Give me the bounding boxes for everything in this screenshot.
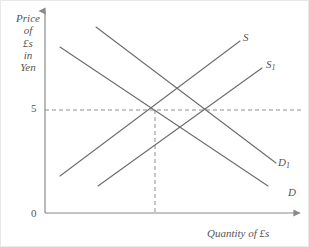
supply-label-subscript: 1 bbox=[272, 63, 276, 72]
x-axis-label: Quantity of £s bbox=[207, 227, 269, 239]
y-axis-label-line-3: £s bbox=[8, 37, 48, 49]
supply-curve-label-S1: S1 bbox=[266, 58, 276, 73]
demand-curve-label-D1: D1 bbox=[278, 156, 290, 171]
demand-curve-label-D: D bbox=[288, 186, 296, 198]
y-axis-label-line-5: Yen bbox=[8, 61, 48, 73]
y-axis-label-line-4: in bbox=[8, 49, 48, 61]
supply-demand-diagram: Price of £s in Yen Quantity of £s 5 0 S … bbox=[0, 0, 309, 247]
demand-curve-D1 bbox=[96, 27, 276, 163]
supply-curve-S bbox=[60, 41, 240, 176]
demand-curve-D bbox=[60, 47, 268, 186]
supply-curve-label-S: S bbox=[243, 31, 249, 43]
y-axis-label-line-1: Price bbox=[8, 12, 48, 24]
y-axis-label: Price of £s in Yen bbox=[8, 12, 48, 74]
demand-label-subscript: 1 bbox=[286, 161, 290, 170]
y-tick-5: 5 bbox=[31, 102, 37, 114]
y-axis-label-line-2: of bbox=[8, 24, 48, 36]
demand-label-base: D bbox=[278, 156, 286, 168]
origin-label-0: 0 bbox=[31, 207, 37, 219]
